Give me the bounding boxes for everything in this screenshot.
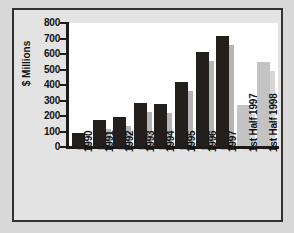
bar-group: [196, 23, 214, 147]
y-tick-label: 0: [26, 142, 60, 152]
bar-group: [72, 23, 90, 147]
y-tick-mark: [60, 38, 67, 40]
y-tick-label: 800: [26, 18, 60, 28]
bar-group: [154, 23, 172, 147]
bar-group: [175, 23, 193, 147]
x-tick-label: 1994: [165, 131, 176, 152]
y-tick-mark: [60, 100, 67, 102]
plot-area: [67, 23, 278, 147]
y-tick-label: 100: [26, 127, 60, 137]
x-tick-label: 1990: [83, 131, 94, 152]
chart-page: 8007006005004003002001000 $ Millions 199…: [0, 0, 294, 233]
y-tick-mark: [60, 131, 67, 133]
y-tick-mark: [60, 53, 67, 55]
x-tick-label: 1995: [186, 131, 197, 152]
x-tick-label: 1st Half 1998: [268, 93, 279, 152]
y-tick-mark: [60, 22, 67, 24]
y-tick-mark: [60, 84, 67, 86]
x-tick-label: 1992: [124, 131, 135, 152]
x-tick-label: 1993: [145, 131, 156, 152]
y-tick-mark: [60, 115, 67, 117]
chart-frame: 8007006005004003002001000 $ Millions 199…: [12, 8, 283, 222]
x-tick-label: 1997: [227, 131, 238, 152]
y-tick-mark: [60, 69, 67, 71]
x-tick-label: 1996: [207, 131, 218, 152]
bar-group: [134, 23, 152, 147]
x-tick-label: 1991: [104, 131, 115, 152]
bar-group: [93, 23, 111, 147]
y-tick-mark: [60, 146, 67, 148]
bar-group: [216, 23, 234, 147]
x-tick-label: 1st Half 1997: [248, 93, 259, 152]
y-axis-title: $ Millions: [21, 28, 32, 100]
bar-group: [113, 23, 131, 147]
y-tick-label: 200: [26, 111, 60, 121]
